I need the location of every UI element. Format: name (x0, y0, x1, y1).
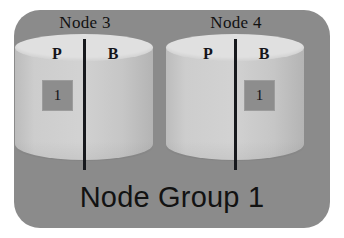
node-cylinder-node-3: P B 1 (15, 34, 153, 160)
partition-label-backup: B (236, 46, 292, 62)
diagram-canvas: Node 3 P B 1 Node 4 P B 1 Node Group 1 (0, 0, 344, 238)
fragment-box: 1 (42, 80, 73, 111)
fragment-box: 1 (244, 80, 275, 111)
node-cylinder-node-4: P B 1 (166, 34, 304, 160)
partition-label-primary: P (180, 46, 236, 62)
partition-label-primary: P (29, 46, 85, 62)
node-caption-node-4: Node 4 (166, 14, 306, 31)
node-caption-node-3: Node 3 (15, 14, 155, 31)
partition-label-backup: B (85, 46, 141, 62)
node-group-label: Node Group 1 (14, 182, 330, 214)
